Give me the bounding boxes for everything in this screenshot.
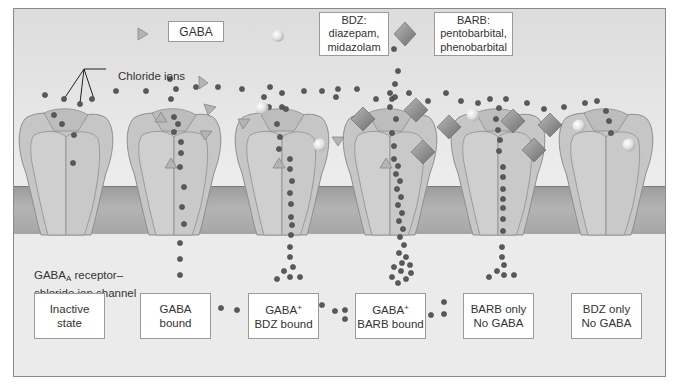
legend-barb-title: BARB: [457,14,490,28]
state-gaba-bdz-bound: GABA+ BDZ bound [248,293,319,339]
state-barb-only: BARB only No GABA [463,293,534,339]
channel-inactive [19,109,113,235]
state-line2: BDZ bound [254,317,312,331]
gaba-triangle-icon [138,28,148,40]
chloride-pointer-lines [64,69,106,103]
barb-diamond-icon [394,22,416,46]
state-line2: No GABA [582,316,632,330]
state-line2: No GABA [474,316,524,330]
legend-barb: BARB: pentobarbital, phenobarbital [434,12,513,56]
state-line1: Inactive [50,302,90,316]
state-bdz-only: BDZ only No GABA [571,293,642,339]
state-inactive: Inactive state [34,293,105,339]
channel-gaba-bound [127,109,221,235]
legend-gaba: GABA [168,21,224,42]
state-gaba-bound: GABA bound [140,293,211,339]
legend-bdz: BDZ: diazepam, midazolam [319,12,389,56]
ion-inactive [70,160,75,165]
legend-barb-line1: pentobarbital, [440,27,507,41]
legend-bdz-line1: diazepam, [329,27,380,41]
state-gaba-barb-bound: GABA+ BARB bound [355,293,426,339]
state-line1: BARB only [471,302,527,316]
channel-gaba-barb [343,109,437,235]
diagram-frame: GABA BDZ: diazepam, midazolam BARB: pent… [13,8,666,377]
bdz-sphere-icon [272,30,284,42]
chloride-ions-label: Chloride ions [118,69,185,83]
legend-gaba-label: GABA [179,25,212,39]
receptor-label-gaba: GABA [34,269,66,281]
state-line1: GABA+ [265,301,302,317]
state-line1: GABA+ [372,301,409,317]
legend-barb-line2: phenobarbital [440,41,507,55]
diagram-artwork [14,9,666,377]
legend-bdz-title: BDZ: [341,14,366,28]
state-line2: bound [160,316,192,330]
channel-gaba-bdz [235,109,329,235]
state-line2: state [57,316,82,330]
state-line1: GABA [160,302,192,316]
receptor-label-rest: receptor– [71,269,123,281]
state-line1: BDZ only [583,302,630,316]
legend-bdz-line2: midazolam [327,41,380,55]
state-line2: BARB bound [357,317,424,331]
